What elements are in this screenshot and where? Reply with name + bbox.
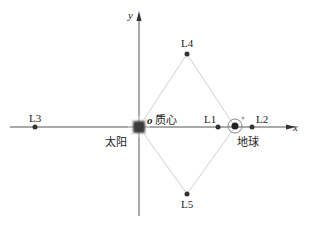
earth: 地球: [228, 117, 259, 150]
svg-text:L4: L4: [181, 37, 194, 49]
origin-label: o: [147, 114, 153, 126]
x-axis-label: x: [292, 121, 298, 133]
svg-text:L1: L1: [204, 113, 216, 125]
svg-text:L3: L3: [29, 112, 42, 124]
y-axis-arrow-icon: [137, 11, 142, 21]
y-axis: y: [127, 9, 142, 216]
y-axis-label: y: [127, 9, 133, 21]
sun-label: 太阳: [105, 136, 127, 149]
sun-icon: [133, 121, 145, 133]
equilateral-triangles: [139, 54, 235, 194]
barycenter-label: 质心: [155, 114, 177, 127]
line-l5-sun: [139, 127, 187, 194]
earth-label: 地球: [237, 135, 259, 149]
lagrange-diagram: x y 太阳 o 质心 地球 L1 L2 L3: [0, 0, 309, 227]
svg-text:L2: L2: [256, 113, 268, 125]
svg-text:L5: L5: [181, 198, 194, 210]
moon-icon: [242, 117, 245, 120]
lagrange-point-l4: L4: [181, 37, 194, 57]
line-earth-l5: [187, 127, 235, 194]
x-axis: x: [10, 121, 298, 133]
lagrange-point-l5: L5: [181, 192, 194, 211]
earth-icon: [232, 123, 239, 130]
